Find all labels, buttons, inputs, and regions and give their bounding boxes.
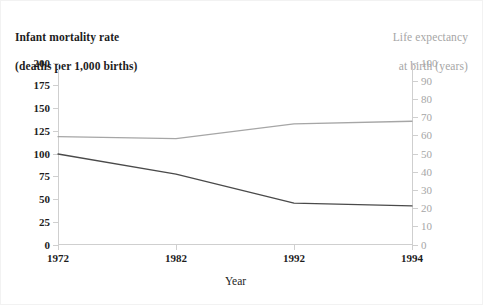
right-tick-mark (413, 226, 418, 227)
x-tick-label: 1982 (165, 253, 187, 264)
chart-figure: Infant mortality rate (deaths per 1,000 … (0, 0, 483, 305)
right-tick-mark (413, 154, 418, 155)
left-tick-label: 175 (34, 80, 51, 91)
right-tick-label: 80 (421, 94, 432, 105)
left-tick-label: 200 (34, 58, 51, 69)
right-tick-mark (413, 172, 418, 173)
right-tick-mark (413, 63, 418, 64)
series-line (58, 121, 412, 138)
right-tick-mark (413, 99, 418, 100)
series-line (58, 154, 412, 206)
left-tick-label: 150 (34, 103, 51, 114)
right-tick-mark (413, 135, 418, 136)
right-tick-mark (413, 81, 418, 82)
right-tick-label: 0 (421, 240, 427, 251)
x-tick-mark (176, 245, 177, 250)
left-tick-label: 75 (39, 171, 50, 182)
right-axis-title-line-1: Life expectancy (393, 31, 468, 43)
x-tick-label: 1972 (47, 253, 69, 264)
plot-area: 0255075100125150175200 01020304050607080… (58, 63, 413, 245)
right-tick-label: 20 (421, 203, 432, 214)
left-tick-label: 0 (45, 240, 51, 251)
right-tick-label: 40 (421, 167, 432, 178)
right-tick-label: 90 (421, 76, 432, 87)
left-tick-label: 50 (39, 194, 50, 205)
right-tick-label: 50 (421, 149, 432, 160)
series-lines (58, 63, 413, 245)
right-tick-label: 100 (421, 58, 438, 69)
right-tick-label: 70 (421, 112, 432, 123)
left-tick-label: 25 (39, 217, 50, 228)
right-tick-label: 30 (421, 185, 432, 196)
x-tick-mark (412, 245, 413, 250)
x-axis-label: Year (58, 275, 413, 287)
x-tick-mark (294, 245, 295, 250)
right-tick-mark (413, 208, 418, 209)
left-axis-title-line-1: Infant mortality rate (15, 31, 119, 43)
right-tick-mark (413, 190, 418, 191)
right-tick-mark (413, 245, 418, 246)
x-tick-label: 1992 (283, 253, 305, 264)
right-tick-label: 10 (421, 221, 432, 232)
right-tick-mark (413, 117, 418, 118)
x-tick-mark (58, 245, 59, 250)
x-tick-label: 1994 (401, 253, 423, 264)
right-tick-label: 60 (421, 130, 432, 141)
left-tick-label: 100 (34, 149, 51, 160)
left-tick-label: 125 (34, 126, 51, 137)
